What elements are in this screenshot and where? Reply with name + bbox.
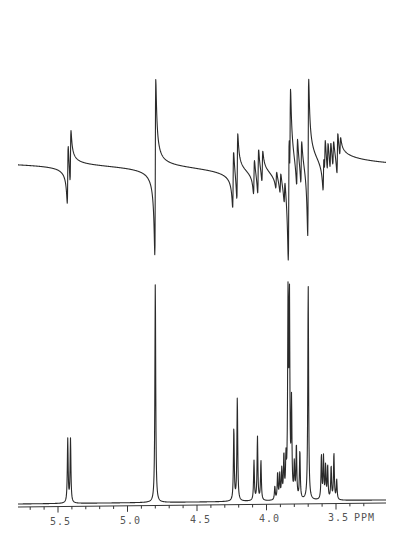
- tick-label-5.5: 5.5: [50, 516, 71, 527]
- axis-unit-label: PPM: [354, 512, 375, 523]
- ppm-axis: 5.5 5.0 4.5 4.0 3.5 PPM: [18, 503, 386, 527]
- absorption-curve: [18, 282, 386, 504]
- tick-label-3.5: 3.5: [328, 512, 349, 523]
- tick-label-4.0: 4.0: [259, 513, 280, 524]
- bottom-absorption-trace: [18, 282, 386, 504]
- top-dispersion-trace: [18, 79, 386, 260]
- tick-label-5.0: 5.0: [120, 515, 141, 526]
- axis-line: [18, 503, 386, 507]
- tick-label-4.5: 4.5: [190, 514, 211, 525]
- nmr-spectrum-figure: 5.5 5.0 4.5 4.0 3.5 PPM: [0, 0, 404, 536]
- dispersion-curve: [18, 79, 386, 260]
